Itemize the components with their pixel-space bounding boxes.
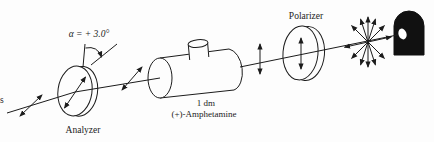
polarizer-disc (281, 25, 327, 82)
angle-rotated-line (91, 44, 117, 65)
polarimeter-diagram: α = + 3.0° Analyzer 1 dm (+)-Amphetamine… (0, 0, 434, 142)
angle-arc-arrow (86, 48, 102, 57)
diagram-canvas: α = + 3.0° Analyzer 1 dm (+)-Amphetamine… (0, 0, 434, 142)
rotated-polarization-arrow-mid (122, 67, 142, 90)
tube-length-label: 1 dm (197, 98, 215, 108)
sample-tube (148, 39, 242, 98)
rotated-polarization-arrow-left (20, 95, 42, 116)
left-cropped-text-fragment: s (0, 95, 4, 105)
rotation-angle-annotation (83, 44, 117, 67)
polarizer-label: Polarizer (289, 11, 324, 21)
unpolarized-light-starburst (345, 17, 392, 67)
angle-reference-line (83, 44, 85, 67)
sample-name-label: (+)-Amphetamine (171, 109, 236, 119)
analyzer-label: Analyzer (66, 125, 102, 135)
rotation-angle-label: α = + 3.0° (69, 29, 110, 39)
